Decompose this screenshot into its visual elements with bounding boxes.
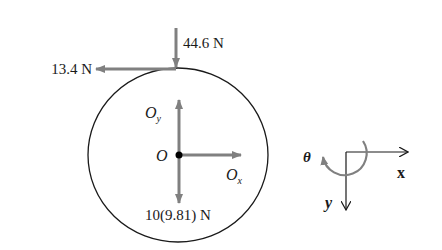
pin-point <box>176 152 183 159</box>
reaction-ox-label: Ox <box>226 166 243 186</box>
force-44-6-label: 44.6 N <box>183 35 224 51</box>
free-body-diagram: 44.6 N 13.4 N Oy Ox 10(9.81) N O x y θ <box>0 0 442 250</box>
theta-label: θ <box>303 149 311 165</box>
weight-label: 10(9.81) N <box>145 207 211 224</box>
reaction-oy-label: Oy <box>145 104 162 124</box>
x-axis-label: x <box>397 164 405 181</box>
y-axis-label: y <box>323 194 333 212</box>
theta-rotation-arrow <box>323 141 367 175</box>
pin-label: O <box>156 147 168 164</box>
coordinate-frame <box>323 141 408 210</box>
force-13-4-label: 13.4 N <box>51 61 92 77</box>
